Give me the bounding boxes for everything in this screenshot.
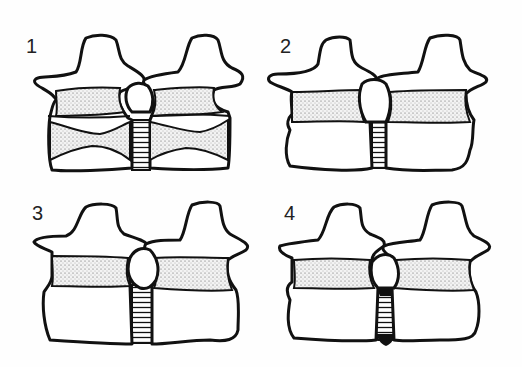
facet-joint [359,80,390,123]
stippled-band [52,256,130,287]
panel-2 [268,35,486,170]
intervertebral-gap [132,285,152,343]
stippled-band [154,257,232,291]
panel-3 [34,202,248,344]
panel-4 [280,202,490,346]
stippled-band [388,90,470,123]
figure-canvas: 1 2 3 4 [0,0,522,367]
panel-label-4: 4 [284,203,295,223]
vertebrae-diagram [0,0,522,367]
stippled-band [292,90,364,122]
intervertebral-gap [372,122,386,168]
facet-joint [128,248,158,288]
panel-1 [35,35,243,171]
intervertebral-gap [132,120,150,170]
panel-label-2: 2 [280,36,291,56]
panel-label-1: 1 [26,36,37,56]
panel-label-3: 3 [32,203,43,223]
facet-joint [126,83,153,112]
facet-joint [371,255,398,288]
stippled-band [56,88,124,116]
stippled-band [394,259,474,291]
stippled-band [152,87,222,116]
stippled-band [294,259,374,289]
